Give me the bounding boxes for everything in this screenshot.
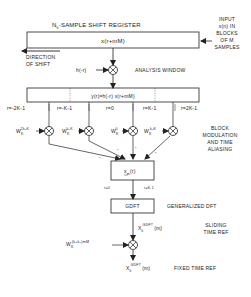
svg-text:DIRECTION: DIRECTION — [26, 54, 55, 60]
multiplier-icon — [45, 127, 54, 136]
svg-text:WK0: WK0 — [111, 127, 119, 136]
svg-text:r=-K-1: r=-K-1 — [57, 105, 72, 111]
svg-text:SAMPLES: SAMPLES — [214, 44, 239, 50]
svg-text:*: * — [117, 149, 119, 153]
segment-labels: r=-2K-1 r=-K-1 r=0 r=K-1 r=2K-1 — [7, 104, 197, 111]
modulator-2: WK0 — [111, 127, 138, 137]
svg-text:INPUT: INPUT — [219, 16, 235, 22]
svg-text:SLIDING: SLIDING — [205, 222, 226, 228]
fixed-time-ref-label: FIXED TIME REF — [174, 265, 216, 271]
windowed-block-content: y(r)=h(-r) x(r+mM) — [91, 93, 135, 99]
gdft-description: GENERALIZED DFT — [167, 203, 216, 209]
aliased-range-start: r=0 — [104, 186, 110, 190]
modulator-0: WK2k₀K — [16, 127, 54, 137]
svg-text:WK2k₀K: WK2k₀K — [16, 127, 29, 136]
svg-text:*: * — [135, 147, 137, 151]
multiplier-icon — [85, 127, 94, 136]
svg-text:WKk₀K: WKk₀K — [62, 127, 73, 136]
filter-bank-diagram: Nh-SAMPLE SHIFT REGISTER x(r+mM) INPUT x… — [0, 0, 251, 297]
window-input-label: h(-r) — [76, 67, 87, 73]
multiplier-icon — [169, 127, 178, 136]
svg-text:*: * — [99, 157, 101, 161]
modulator-1: WKk₀K — [62, 127, 94, 137]
svg-text:TIME REF: TIME REF — [204, 229, 229, 235]
aliased-range-end: r=K-1 — [144, 186, 154, 190]
svg-text:BLOCK: BLOCK — [211, 125, 229, 131]
svg-text:WK-k₀K: WK-k₀K — [144, 127, 157, 136]
sliding-output-label: XkGDFT(m) — [138, 223, 162, 233]
svg-text:r=2K-1: r=2K-1 — [181, 105, 197, 111]
svg-text:ALIASING: ALIASING — [208, 146, 233, 152]
svg-text:AND TIME: AND TIME — [207, 139, 233, 145]
time-ref-modulator-label: WK-(k+k₀)mM — [66, 240, 89, 249]
shift-register-title: Nh-SAMPLE SHIFT REGISTER — [52, 22, 141, 30]
direction-label: DIRECTION OF SHIFT — [26, 54, 55, 67]
sliding-time-ref-label: SLIDING TIME REF — [204, 222, 229, 235]
svg-text:*: * — [155, 152, 157, 156]
svg-text:r=-2K-1: r=-2K-1 — [7, 105, 25, 111]
aliased-block-content: xm(r) — [124, 168, 136, 176]
analysis-window-label: ANALYSIS WINDOW — [135, 67, 185, 73]
svg-text:x(n) IN: x(n) IN — [219, 23, 236, 29]
fixed-output-label: XkGDFT(m) — [126, 263, 150, 273]
multiplier-icon — [129, 127, 138, 136]
input-label: INPUT x(n) IN BLOCKS OF M SAMPLES — [214, 16, 239, 50]
time-ref-multiplier-icon — [129, 241, 138, 250]
shift-register-content: x(r+mM) — [101, 38, 125, 44]
svg-text:r=0: r=0 — [106, 105, 114, 111]
svg-text:BLOCKS: BLOCKS — [216, 30, 238, 36]
svg-text:MODULATION: MODULATION — [203, 132, 238, 138]
svg-text:OF SHIFT: OF SHIFT — [26, 61, 50, 67]
block-modulation-label: BLOCK MODULATION AND TIME ALIASING — [203, 125, 238, 152]
modulator-3: WK-k₀K — [144, 127, 178, 137]
svg-text:OF M: OF M — [220, 37, 233, 43]
svg-text:r=K-1: r=K-1 — [143, 105, 156, 111]
gdft-label: GDFT — [125, 203, 139, 209]
window-multiplier-icon — [109, 66, 118, 75]
